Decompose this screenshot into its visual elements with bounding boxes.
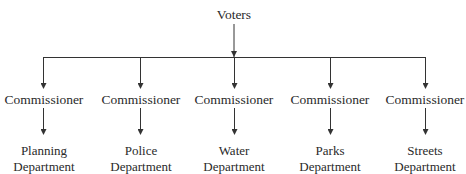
commissioner-water: Commissioner [195, 92, 274, 107]
department-name: Parks [299, 143, 360, 159]
department-label: Department [299, 159, 360, 174]
commissioner-streets: Commissioner [386, 92, 465, 107]
police-department-node: Police Department [110, 143, 171, 174]
commissioner-planning: Commissioner [5, 92, 84, 107]
commissioner-police: Commissioner [102, 92, 181, 107]
planning-department-node: Planning Department [13, 143, 74, 174]
parks-department-node: Parks Department [299, 143, 360, 174]
department-label: Department [394, 159, 455, 174]
department-label: Department [203, 159, 264, 174]
department-name: Police [110, 143, 171, 159]
department-label: Department [13, 159, 74, 174]
water-department-node: Water Department [203, 143, 264, 174]
department-name: Planning [13, 143, 74, 159]
department-label: Department [110, 159, 171, 174]
department-name: Water [203, 143, 264, 159]
streets-department-node: Streets Department [394, 143, 455, 174]
department-name: Streets [394, 143, 455, 159]
commissioner-parks: Commissioner [291, 92, 370, 107]
voters-node: Voters [217, 7, 251, 22]
